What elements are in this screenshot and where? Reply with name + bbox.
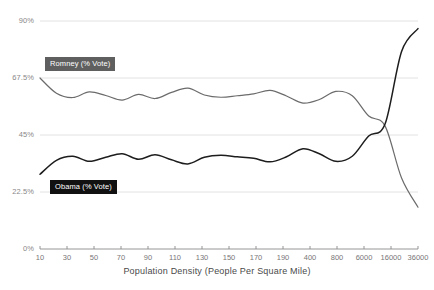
- x-tick-label-800: 800: [323, 253, 351, 262]
- y-tick-label-45: 45%: [0, 130, 34, 139]
- y-tick-label-0: 0%: [0, 244, 34, 253]
- x-tick-label-90: 90: [134, 253, 162, 262]
- x-tick-label-170: 170: [242, 253, 270, 262]
- x-tick-label-130: 130: [188, 253, 216, 262]
- chart-container: 90% 67.5% 45% 22.5% 0% 10 30 50 70 90 11…: [0, 0, 434, 290]
- series-label-romney: Romney (% Vote): [45, 57, 115, 71]
- y-tick-label-67-5: 67.5%: [0, 73, 34, 82]
- x-tick-label-400: 400: [296, 253, 324, 262]
- x-tick-label-110: 110: [161, 253, 189, 262]
- series-line-obama: [40, 29, 418, 175]
- x-tick-label-30: 30: [53, 253, 81, 262]
- x-axis: [40, 246, 418, 249]
- series-label-obama: Obama (% Vote): [50, 180, 117, 194]
- x-tick-label-70: 70: [107, 253, 135, 262]
- x-axis-title: Population Density (People Per Square Mi…: [0, 266, 434, 276]
- chart-plot-area: [0, 0, 434, 290]
- y-tick-label-22-5: 22.5%: [0, 187, 34, 196]
- y-tick-label-90: 90%: [0, 16, 34, 25]
- x-tick-label-190: 190: [269, 253, 297, 262]
- x-tick-label-36000: 36000: [400, 253, 434, 262]
- x-tick-label-150: 150: [215, 253, 243, 262]
- x-tick-label-10: 10: [26, 253, 54, 262]
- x-tick-label-50: 50: [80, 253, 108, 262]
